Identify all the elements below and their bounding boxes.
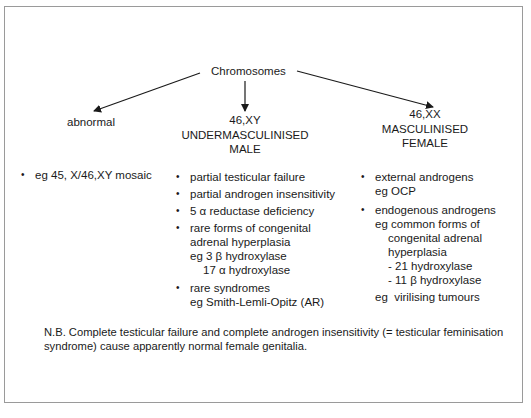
bullet-icon: • (361, 170, 365, 184)
footnote: N.B. Complete testicular failure and com… (44, 325, 503, 353)
footnote-line: syndrome) cause apparently normal female… (44, 339, 503, 353)
list-item-text: partial testicular failure (190, 170, 305, 184)
list-item: external androgens eg OCP (375, 170, 473, 198)
list-item-text: - 21 hydroxylase (375, 259, 496, 273)
list-item: 5 α reductase deficiency (190, 204, 314, 218)
list-item-text: eg OCP (375, 184, 473, 198)
branch-title-line: UNDERMASCULINISED (180, 128, 310, 143)
footnote-line: N.B. Complete testicular failure and com… (44, 325, 503, 339)
branch-46xx-title: 46,XX MASCULINISED FEMALE (375, 107, 475, 151)
branch-46xy-title: 46,XY UNDERMASCULINISED MALE (180, 113, 310, 157)
list-item-text: rare forms of congenital (190, 221, 311, 235)
branch-title-line: MALE (180, 142, 310, 157)
list-item-text: adrenal hyperplasia (190, 235, 311, 249)
list-item: rare syndromes eg Smith-Lemli-Opitz (AR) (190, 281, 324, 309)
bullet-icon: • (176, 170, 180, 184)
list-item: endogenous androgens eg common forms of … (375, 203, 496, 287)
list-item: partial androgen insensitivity (190, 187, 335, 201)
list-item: rare forms of congenital adrenal hyperpl… (190, 221, 311, 277)
branch-title-line: 46,XY (180, 113, 310, 128)
bullet-icon: • (176, 281, 180, 295)
list-item-text: eg Smith-Lemli-Opitz (AR) (190, 295, 324, 309)
bullet-icon: • (176, 187, 180, 201)
root-node-chromosomes: Chromosomes (211, 64, 286, 79)
list-item-text: endogenous androgens (375, 203, 496, 217)
branch-46xx-footer: eg virilising tumours (375, 290, 480, 304)
list-item-text: hyperplasia (375, 245, 496, 259)
branch-title-line: 46,XX (375, 107, 475, 122)
list-item-text: eg 45, X/46,XY mosaic (35, 168, 152, 182)
list-item-text: 17 α hydroxylase (190, 263, 311, 277)
list-item: partial testicular failure (190, 170, 305, 184)
arrow-to-abnormal (94, 73, 200, 111)
arrow-to-46xx (297, 71, 433, 107)
bullet-icon: • (21, 168, 25, 182)
bullet-icon: • (176, 204, 180, 218)
branch-title-line: abnormal (40, 115, 142, 130)
list-item-text: external androgens (375, 170, 473, 184)
bullet-icon: • (176, 221, 180, 235)
branch-title-line: FEMALE (375, 136, 475, 151)
list-item-text: eg 3 β hydroxylase (190, 249, 311, 263)
list-item-text: 5 α reductase deficiency (190, 204, 314, 218)
list-item-text: eg common forms of (375, 217, 496, 231)
list-item-text: - 11 β hydroxylase (375, 273, 496, 287)
list-item-text: partial androgen insensitivity (190, 187, 335, 201)
list-item-text: rare syndromes (190, 281, 324, 295)
list-item-text: congenital adrenal (375, 231, 496, 245)
branch-abnormal-title: abnormal (40, 115, 142, 130)
bullet-icon: • (361, 203, 365, 217)
list-item: eg 45, X/46,XY mosaic (35, 168, 152, 182)
branch-title-line: MASCULINISED (375, 122, 475, 137)
